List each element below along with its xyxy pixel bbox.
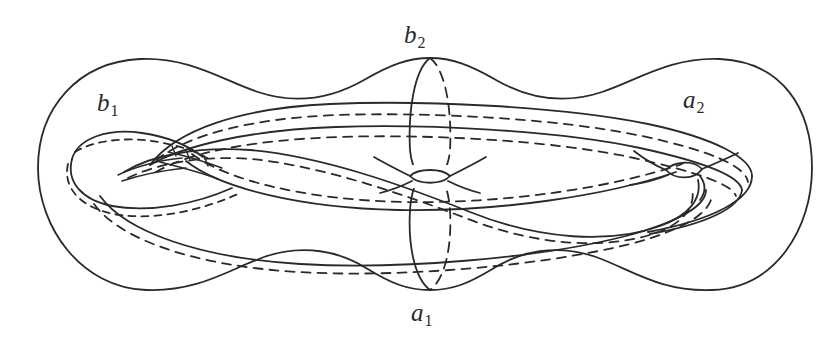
curve-label-b1: b1 [97,90,119,119]
curve-label-b2-base: b [404,21,417,48]
curve-label-a1: a1 [411,300,433,329]
a2-band-hidden-dashed-lower [156,136,736,196]
center-waist-lower-right-whisker [448,181,480,193]
curve-label-a1-sub: 1 [424,312,433,329]
curve-label-a2: a2 [683,87,705,116]
center-waist-eye [410,170,450,183]
b2-meridian-front-upper [410,58,430,176]
curve-label-b1-sub: 1 [110,102,119,119]
b2-meridian-back-upper [430,58,450,176]
surface-drawing [0,0,834,348]
curve-label-a2-sub: 2 [696,99,705,116]
center-waist-right-whisker [450,157,486,176]
a2-band-hidden-dashed [156,114,748,182]
curve-label-b1-base: b [97,89,110,116]
genus-2-surface-figure: b2 a1 b1 a2 [0,0,834,348]
curve-label-b2-sub: 2 [417,34,426,51]
a2-band-right-return-inner [650,190,742,234]
curve-label-b2: b2 [404,22,426,51]
a1-band-hidden-dashed [94,194,712,274]
center-waist-left-whisker [374,157,410,176]
right-pinch-left-whisker [634,151,666,170]
curve-label-a1-base: a [411,299,424,326]
curve-label-a2-base: a [683,86,696,113]
center-waist-lower-left-whisker [380,181,412,193]
b2-meridian-back-lower [430,176,450,290]
